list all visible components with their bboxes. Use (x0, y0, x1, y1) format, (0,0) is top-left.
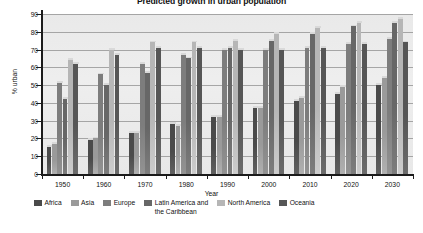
bar (156, 48, 161, 174)
bar (52, 144, 57, 174)
x-axis-tick-mark (372, 174, 373, 179)
y-axis-tick-label: 0 (8, 171, 38, 178)
bar (211, 117, 216, 174)
legend-swatch-icon (103, 200, 111, 206)
chart-title: Predicted growth in urban population (0, 0, 423, 6)
bar (98, 74, 103, 174)
bar (47, 147, 52, 174)
bar (150, 42, 155, 174)
bar (176, 126, 181, 174)
bar (192, 42, 197, 174)
bar (57, 83, 62, 174)
legend-item[interactable]: Oceania (279, 199, 314, 208)
bar (63, 99, 68, 174)
bar (382, 78, 387, 174)
bar (315, 28, 320, 174)
bar (305, 48, 310, 174)
x-axis-tick-mark (289, 174, 290, 179)
bar (253, 108, 258, 174)
x-axis-tick-mark (166, 174, 167, 179)
x-axis-tick-label: 1950 (43, 181, 83, 188)
x-axis-tick-label: 1970 (125, 181, 165, 188)
y-axis-tick-label: 90 (8, 11, 38, 18)
chart-legend: AfricaAsiaEuropeLatin America and the Ca… (34, 199, 414, 216)
bar (269, 41, 274, 174)
legend-item[interactable]: North America (217, 199, 270, 208)
y-axis-tick-label: 60 (8, 64, 38, 71)
bar (310, 34, 315, 174)
legend-label: North America (228, 199, 270, 208)
legend-label: Europe (114, 199, 136, 208)
bar (129, 133, 134, 174)
x-axis-tick-label: 1980 (166, 181, 206, 188)
plot-area (42, 14, 413, 174)
y-axis-tick-mark (36, 50, 41, 51)
gridline (42, 14, 413, 15)
bar (258, 108, 263, 174)
legend-label: Oceania (290, 199, 315, 208)
x-axis-tick-mark (83, 174, 84, 179)
bar (115, 55, 120, 174)
x-axis-tick-mark (331, 174, 332, 179)
legend-item[interactable]: Asia (71, 199, 95, 208)
x-axis-tick-label: 2030 (372, 181, 412, 188)
bar (392, 23, 397, 174)
x-axis-tick-mark (42, 174, 43, 179)
legend-swatch-icon (34, 200, 42, 206)
y-axis-tick-label: 80 (8, 28, 38, 35)
legend-item[interactable]: Europe (103, 199, 135, 208)
bar (73, 64, 78, 174)
bar (197, 48, 202, 174)
bar (181, 55, 186, 174)
bar (340, 87, 345, 174)
bar (145, 73, 150, 174)
legend-swatch-icon (71, 200, 79, 206)
y-axis-tick-mark (36, 67, 41, 68)
bar (387, 39, 392, 174)
bar (274, 34, 279, 174)
y-axis-tick-mark (36, 156, 41, 157)
y-axis-tick-mark (36, 121, 41, 122)
bar (109, 50, 114, 174)
bar (186, 58, 191, 174)
x-axis-tick-label: 1960 (84, 181, 124, 188)
bar (228, 48, 233, 174)
legend-swatch-icon (217, 200, 225, 206)
bar (299, 98, 304, 174)
y-axis-tick-label: 40 (8, 99, 38, 106)
bar (263, 50, 268, 174)
bar (238, 50, 243, 174)
bar (93, 138, 98, 174)
x-axis-tick-label: 2010 (290, 181, 330, 188)
x-axis-tick-mark (207, 174, 208, 179)
x-axis-title: Year (0, 190, 423, 197)
legend-swatch-icon (144, 200, 152, 206)
bar (217, 117, 222, 174)
y-axis-tick-mark (36, 174, 41, 175)
bar (170, 124, 175, 174)
y-axis-tick-label: 70 (8, 46, 38, 53)
bar (134, 133, 139, 174)
y-axis-tick-label: 20 (8, 135, 38, 142)
bar (398, 19, 403, 174)
y-axis-tick-label: 50 (8, 82, 38, 89)
legend-swatch-icon (279, 200, 287, 206)
bar (357, 23, 362, 174)
y-axis-tick-mark (36, 14, 41, 15)
y-axis-tick-mark (36, 138, 41, 139)
x-axis-line (41, 174, 413, 176)
legend-item[interactable]: Latin America and the Caribbean (144, 199, 208, 216)
bar (403, 42, 408, 174)
y-axis-tick-mark (36, 103, 41, 104)
x-axis-tick-mark (413, 174, 414, 179)
chart-figure: Predicted growth in urban population % u… (0, 0, 423, 233)
x-axis-tick-mark (248, 174, 249, 179)
legend-label: Asia (81, 199, 94, 208)
x-axis-tick-mark (124, 174, 125, 179)
legend-item[interactable]: Africa (34, 199, 62, 208)
x-axis-tick-label: 1990 (208, 181, 248, 188)
bar (104, 85, 109, 174)
y-axis-tick-label: 10 (8, 153, 38, 160)
legend-label: Africa (45, 199, 62, 208)
bar (88, 140, 93, 174)
